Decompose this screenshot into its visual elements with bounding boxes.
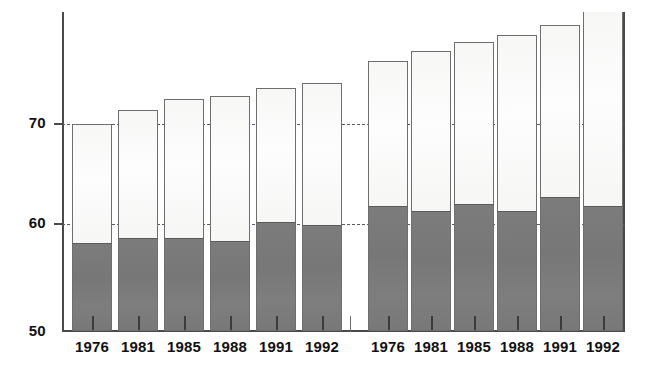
- bar-segment-upper: [72, 124, 112, 244]
- y-tick-label-50: 50: [0, 322, 46, 339]
- bar-segment-upper: [256, 88, 296, 223]
- bar-segment-lower: [368, 206, 408, 331]
- right-axis-spine: [623, 12, 625, 332]
- bar-left-1992[interactable]: [302, 83, 342, 331]
- panel-divider-tick: [350, 316, 351, 332]
- bar-segment-lower: [72, 243, 112, 331]
- bar-base-tick: [517, 316, 519, 330]
- bar-left-1991[interactable]: [256, 88, 296, 331]
- bar-right-1992[interactable]: [583, 12, 623, 331]
- bar-segment-upper: [540, 25, 580, 198]
- bar-segment-upper: [454, 42, 494, 205]
- bar-segment-lower: [118, 238, 158, 331]
- bar-right-1985[interactable]: [454, 42, 494, 331]
- bar-segment-lower: [583, 206, 623, 331]
- bar-segment-lower: [302, 225, 342, 331]
- bar-segment-lower: [497, 211, 537, 331]
- bar-segment-upper: [411, 51, 451, 212]
- bar-base-tick: [138, 316, 140, 330]
- y-tick-70: [54, 123, 63, 125]
- bar-segment-lower: [454, 204, 494, 331]
- bar-base-tick: [388, 316, 390, 330]
- bar-left-1988[interactable]: [210, 96, 250, 331]
- bar-segment-upper: [210, 96, 250, 242]
- bar-base-tick: [322, 316, 324, 330]
- bar-segment-lower: [164, 238, 204, 331]
- bar-base-tick: [603, 316, 605, 330]
- bar-left-1985[interactable]: [164, 99, 204, 331]
- bar-right-1981[interactable]: [411, 51, 451, 331]
- y-tick-label-60: 60: [0, 214, 46, 231]
- bar-base-tick: [560, 316, 562, 330]
- bar-segment-lower: [540, 197, 580, 331]
- bar-segment-upper: [583, 12, 623, 208]
- bar-segment-lower: [411, 211, 451, 331]
- y-axis-spine: [62, 12, 64, 332]
- y-tick-60: [54, 223, 63, 225]
- bar-base-tick: [474, 316, 476, 330]
- x-label-left-1992: 1992: [292, 338, 352, 355]
- bar-segment-upper: [497, 35, 537, 212]
- bar-base-tick: [92, 316, 94, 330]
- bar-right-1976[interactable]: [368, 61, 408, 331]
- bar-base-tick: [431, 316, 433, 330]
- bar-segment-upper: [302, 83, 342, 226]
- bar-right-1988[interactable]: [497, 35, 537, 331]
- bar-left-1981[interactable]: [118, 110, 158, 331]
- y-tick-label-70: 70: [0, 114, 46, 131]
- bar-segment-lower: [256, 222, 296, 331]
- bar-right-1991[interactable]: [540, 25, 580, 331]
- bar-base-tick: [276, 316, 278, 330]
- bar-segment-upper: [368, 61, 408, 207]
- x-label-right-1992: 1992: [573, 338, 633, 355]
- bar-left-1976[interactable]: [72, 124, 112, 331]
- bar-segment-upper: [118, 110, 158, 239]
- bar-segment-upper: [164, 99, 204, 239]
- plot-area: 70 60 50 1976 1981: [0, 0, 653, 378]
- chart-container: 70 60 50 1976 1981: [0, 0, 653, 378]
- bar-base-tick: [230, 316, 232, 330]
- bar-segment-lower: [210, 241, 250, 331]
- bar-base-tick: [184, 316, 186, 330]
